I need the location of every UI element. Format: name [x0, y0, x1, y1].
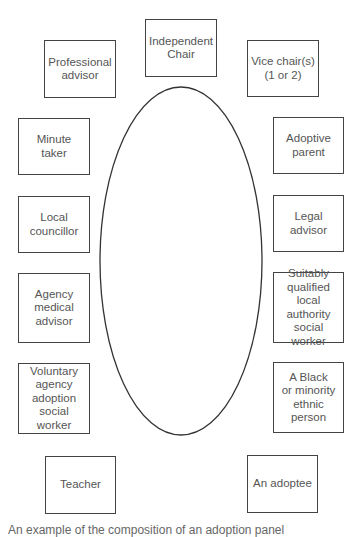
member-box-agency-medical-advisor: Agency medical advisor — [18, 273, 90, 343]
member-box-vice-chairs: Vice chair(s) (1 or 2) — [247, 40, 319, 97]
member-label: Adoptive parent — [286, 132, 331, 159]
member-label: Vice chair(s) (1 or 2) — [251, 55, 315, 82]
member-box-voluntary-agency-social-worker: Voluntary agency adoption social worker — [18, 363, 90, 434]
member-label: Voluntary agency adoption social worker — [21, 365, 87, 433]
member-label: Local councillor — [30, 211, 79, 238]
member-box-minute-taker: Minute taker — [18, 118, 90, 175]
member-box-professional-advisor: Professional advisor — [44, 40, 116, 98]
member-box-teacher: Teacher — [45, 456, 116, 514]
member-label: Suitably qualified local authority socia… — [276, 267, 341, 348]
member-box-independent-chair: Independent Chair — [145, 19, 217, 77]
member-box-local-councillor: Local councillor — [18, 196, 90, 253]
member-label: Agency medical advisor — [34, 288, 74, 329]
member-box-black-minority-ethnic-person: A Black or minority ethnic person — [273, 362, 344, 433]
figure-caption: An example of the composition of an adop… — [8, 523, 284, 537]
member-label: Professional advisor — [48, 56, 111, 83]
member-label: An adoptee — [253, 477, 312, 491]
member-label: Legal advisor — [290, 210, 327, 237]
member-label: A Black or minority ethnic person — [282, 371, 336, 425]
member-box-suitably-qualified-social-worker: Suitably qualified local authority socia… — [273, 272, 344, 343]
member-label: Independent Chair — [149, 35, 213, 62]
member-box-legal-advisor: Legal advisor — [273, 195, 344, 252]
member-box-adoptee: An adoptee — [247, 455, 318, 513]
member-box-adoptive-parent: Adoptive parent — [273, 117, 344, 174]
member-label: Minute taker — [37, 133, 72, 160]
member-label: Teacher — [60, 478, 101, 492]
